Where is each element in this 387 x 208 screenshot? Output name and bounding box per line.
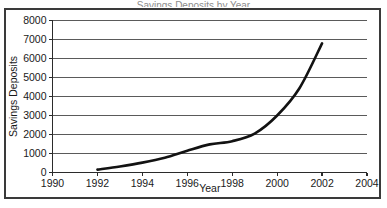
y-tick-label: 1000 xyxy=(23,147,47,159)
y-tick-label: 3000 xyxy=(23,109,47,121)
chart-figure: Savings Deposits by Year 010002000300040… xyxy=(0,0,387,208)
x-axis-title: Year xyxy=(199,182,221,194)
chart-plot: 010002000300040005000600070008000 199019… xyxy=(0,0,387,208)
y-tick-label: 7000 xyxy=(23,33,47,45)
x-tick-label: 2002 xyxy=(310,177,334,189)
gridline-group xyxy=(53,21,368,173)
x-tick-label: 1996 xyxy=(176,177,200,189)
y-tick-label: 8000 xyxy=(23,14,47,26)
y-tick-label: 6000 xyxy=(23,52,47,64)
y-axis-title: Savings Deposits xyxy=(7,56,19,137)
x-tick-label: 1990 xyxy=(41,177,65,189)
x-tick-label: 1998 xyxy=(221,177,245,189)
x-tick-label: 1994 xyxy=(131,177,155,189)
x-tick-label: 2004 xyxy=(355,177,379,189)
y-tick-label-group: 010002000300040005000600070008000 xyxy=(23,14,47,178)
y-tick-label: 4000 xyxy=(23,90,47,102)
data-series-line xyxy=(97,43,322,169)
x-tick-label: 2000 xyxy=(265,177,289,189)
x-tick-label: 1992 xyxy=(86,177,110,189)
tickmark-group xyxy=(49,21,367,177)
y-tick-label: 2000 xyxy=(23,128,47,140)
y-tick-label: 5000 xyxy=(23,71,47,83)
